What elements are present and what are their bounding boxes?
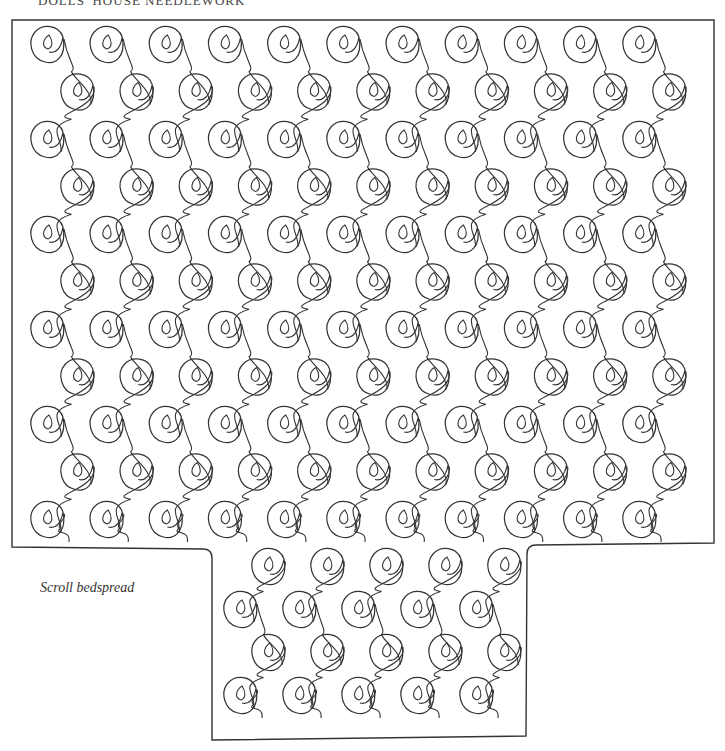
teardrop: [103, 225, 111, 239]
vine: [242, 39, 269, 105]
teardrop: [237, 686, 245, 700]
vine: [478, 419, 505, 485]
teardrop: [488, 463, 496, 477]
teardrop: [473, 686, 481, 700]
teardrop: [606, 463, 614, 477]
teardrop: [383, 557, 391, 571]
teardrop: [370, 368, 378, 382]
teardrop: [74, 368, 82, 382]
teardrop: [458, 320, 466, 334]
vine: [301, 324, 328, 390]
teardrop: [296, 600, 304, 614]
teardrop: [636, 225, 644, 239]
teardrop: [162, 510, 170, 524]
scroll-motif: [31, 26, 64, 62]
teardrop: [414, 686, 422, 700]
teardrop: [517, 130, 525, 144]
teardrop: [370, 83, 378, 97]
teardrop: [399, 415, 407, 429]
vine: [419, 134, 446, 200]
vine: [656, 229, 683, 295]
vine: [651, 514, 661, 542]
vine: [478, 324, 505, 390]
teardrop: [251, 463, 259, 477]
vine: [118, 514, 128, 542]
teardrop: [340, 130, 348, 144]
vine: [478, 229, 505, 295]
teardrop: [355, 686, 363, 700]
vine: [429, 690, 439, 718]
scroll-motif: [252, 548, 285, 584]
vine: [591, 514, 601, 542]
vine: [478, 39, 505, 105]
teardrop: [429, 178, 437, 192]
teardrop: [636, 35, 644, 49]
vine: [597, 419, 624, 485]
teardrop: [576, 415, 584, 429]
teardrop: [576, 225, 584, 239]
teardrop: [133, 178, 141, 192]
teardrop: [265, 557, 273, 571]
teardrop: [488, 178, 496, 192]
teardrop: [280, 225, 288, 239]
teardrop: [340, 35, 348, 49]
teardrop: [666, 273, 674, 287]
teardrop: [251, 83, 259, 97]
vine: [656, 324, 683, 390]
teardrop: [458, 415, 466, 429]
teardrop: [310, 273, 318, 287]
teardrop: [399, 320, 407, 334]
vine: [242, 324, 269, 390]
teardrop: [429, 463, 437, 477]
teardrop: [517, 510, 525, 524]
vine: [360, 134, 387, 200]
vine: [123, 324, 150, 390]
scroll-motif: [252, 634, 285, 670]
scroll-motif: [386, 26, 419, 62]
teardrop: [192, 273, 200, 287]
scroll-motif: [623, 26, 656, 62]
teardrop: [280, 35, 288, 49]
teardrop: [606, 368, 614, 382]
teardrop: [192, 463, 200, 477]
teardrop: [310, 178, 318, 192]
vine: [597, 39, 624, 105]
teardrop: [576, 320, 584, 334]
teardrop: [399, 510, 407, 524]
teardrop: [547, 178, 555, 192]
teardrop: [221, 510, 229, 524]
teardrop: [458, 510, 466, 524]
scroll-motif: [370, 634, 403, 670]
teardrop: [517, 415, 525, 429]
vine: [182, 419, 209, 485]
vine: [597, 134, 624, 200]
teardrop: [310, 368, 318, 382]
teardrop: [162, 35, 170, 49]
teardrop: [576, 130, 584, 144]
scroll-motif: [429, 548, 462, 584]
teardrop: [192, 368, 200, 382]
teardrop: [221, 415, 229, 429]
teardrop: [547, 83, 555, 97]
teardrop: [296, 686, 304, 700]
teardrop: [251, 178, 259, 192]
teardrop: [280, 415, 288, 429]
vine: [414, 514, 424, 542]
teardrop: [103, 35, 111, 49]
teardrop: [74, 83, 82, 97]
teardrop: [280, 510, 288, 524]
vine: [59, 514, 69, 542]
teardrop: [458, 130, 466, 144]
vine: [182, 39, 209, 105]
teardrop: [429, 273, 437, 287]
scroll-motif: [311, 548, 344, 584]
vine: [123, 134, 150, 200]
teardrop: [606, 273, 614, 287]
teardrop: [44, 130, 52, 144]
teardrop: [399, 130, 407, 144]
teardrop: [74, 178, 82, 192]
teardrop: [310, 83, 318, 97]
scroll-motif: [488, 634, 521, 670]
vine: [419, 229, 446, 295]
teardrop: [74, 273, 82, 287]
